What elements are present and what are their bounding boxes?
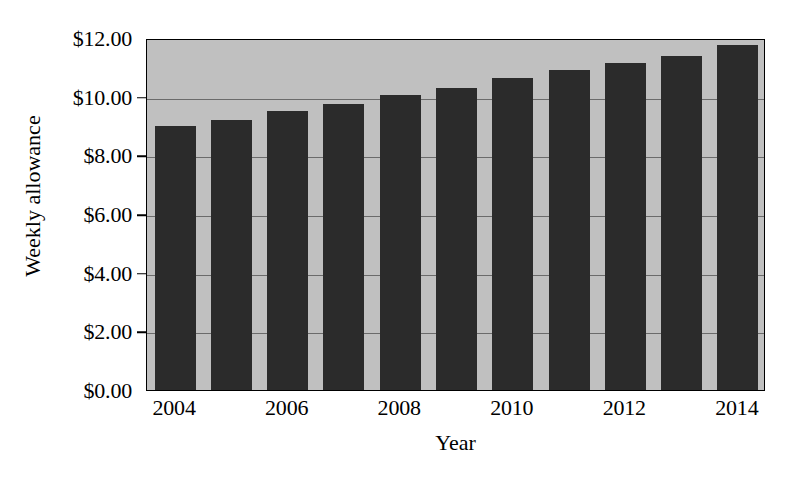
bars-layer <box>147 40 764 390</box>
bar <box>492 78 533 390</box>
bar <box>605 63 646 390</box>
y-tick-label: $8.00 <box>83 145 132 167</box>
x-tick-label: 2004 <box>153 397 196 419</box>
plot-area <box>146 39 765 391</box>
x-tick-label: 2014 <box>715 397 758 419</box>
y-tick-label: $6.00 <box>83 204 132 226</box>
x-tick-label: 2008 <box>378 397 421 419</box>
bar <box>380 95 421 390</box>
y-tick-label: $10.00 <box>73 87 132 109</box>
x-axis: 200420062008201020122014 <box>146 391 765 431</box>
x-tick-label: 2006 <box>265 397 308 419</box>
bar <box>436 88 477 390</box>
y-tick-mark <box>137 332 146 334</box>
y-tick-mark <box>137 214 146 216</box>
y-tick-label: $4.00 <box>83 263 132 285</box>
bar <box>267 111 308 390</box>
bar <box>155 126 196 390</box>
y-tick-mark <box>137 156 146 158</box>
y-tick-label: $2.00 <box>83 321 132 343</box>
bar <box>549 70 590 390</box>
y-axis: $0.00$2.00$4.00$6.00$8.00$10.00$12.00 <box>0 0 146 482</box>
x-tick-label: 2010 <box>490 397 533 419</box>
bar <box>661 56 702 390</box>
x-axis-title: Year <box>146 432 765 454</box>
bar <box>211 120 252 390</box>
y-tick-mark <box>137 97 146 99</box>
bar <box>323 104 364 390</box>
bar-chart-figure: Weekly allowance $0.00$2.00$4.00$6.00$8.… <box>0 0 806 482</box>
x-tick-label: 2012 <box>603 397 646 419</box>
y-tick-label: $12.00 <box>73 28 132 50</box>
y-tick-label: $0.00 <box>83 380 132 402</box>
y-tick-mark <box>137 273 146 275</box>
bar <box>717 45 758 390</box>
